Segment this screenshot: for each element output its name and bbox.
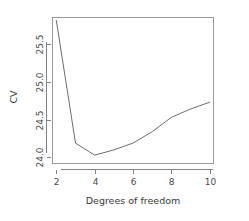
- y-tick-labels: 24.024.525.025.5: [35, 34, 45, 167]
- data-series-cv: [56, 21, 209, 156]
- y-axis-title: CV: [8, 90, 19, 104]
- y-tick-label: 24.5: [35, 110, 45, 130]
- y-tick-label: 25.0: [35, 72, 45, 92]
- plot-panel-border: [53, 18, 214, 164]
- x-tick-label: 4: [93, 177, 99, 187]
- x-tick-label: 6: [131, 177, 137, 187]
- x-axis-title: Degrees of freedom: [86, 195, 181, 206]
- x-tick-label: 8: [169, 177, 175, 187]
- plot-svg: 24.024.525.025.5 246810 Degrees of freed…: [0, 0, 249, 221]
- x-tick-marks: [57, 170, 211, 174]
- x-axis: 246810: [54, 170, 217, 188]
- x-tick-labels: 246810: [54, 177, 217, 187]
- y-tick-label: 24.0: [35, 147, 45, 167]
- x-tick-label: 10: [205, 177, 217, 187]
- y-tick-label: 25.5: [35, 34, 45, 54]
- cv-vs-degrees-of-freedom-chart: 24.024.525.025.5 246810 Degrees of freed…: [0, 0, 249, 221]
- x-tick-label: 2: [54, 177, 60, 187]
- y-tick-marks: [47, 45, 51, 158]
- y-axis: 24.024.525.025.5: [35, 34, 51, 167]
